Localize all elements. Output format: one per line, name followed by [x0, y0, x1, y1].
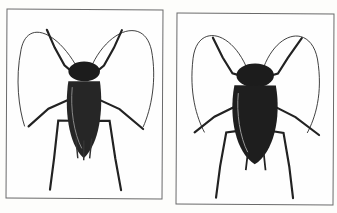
cockroach-illustration-left: [7, 10, 163, 199]
figure-panel-left: [6, 9, 164, 200]
figure-panel-right: [175, 13, 334, 206]
cockroach-illustration-right: [177, 14, 334, 205]
